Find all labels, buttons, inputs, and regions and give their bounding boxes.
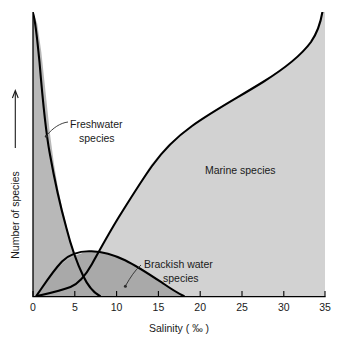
brackish-water-species-label-line1: Brackish water xyxy=(144,258,213,270)
y-axis-arrow-icon xyxy=(12,91,18,149)
brackish-water-species-label-line2: species xyxy=(163,272,199,284)
marine-label-group: Marine species xyxy=(205,164,276,176)
brackish-leader-dot xyxy=(124,285,127,288)
x-axis-title: Salinity ( ‰ ) xyxy=(149,322,209,334)
y-axis-title: Number of species xyxy=(9,171,21,259)
freshwater-species-label-line1: Freshwater xyxy=(70,118,123,130)
x-tick-label-2: 10 xyxy=(111,301,123,313)
freshwater-leader-dot xyxy=(45,135,48,138)
x-axis-tick-labels: 0 5 10 15 20 25 30 35 xyxy=(30,301,331,313)
freshwater-species-label-line2: species xyxy=(79,132,115,144)
x-tick-label-7: 35 xyxy=(319,301,331,313)
x-tick-label-3: 15 xyxy=(153,301,165,313)
x-tick-label-6: 30 xyxy=(278,301,290,313)
x-tick-label-0: 0 xyxy=(30,301,36,313)
x-tick-label-5: 25 xyxy=(236,301,248,313)
freshwater-label-group: Freshwater species xyxy=(45,118,123,144)
x-tick-label-1: 5 xyxy=(72,301,78,313)
marine-species-label: Marine species xyxy=(205,164,276,176)
remane-diagram-svg: 0 5 10 15 20 25 30 35 Salinity ( ‰ ) Num… xyxy=(0,0,344,351)
marine-species-area xyxy=(37,12,325,296)
chart-figure: 0 5 10 15 20 25 30 35 Salinity ( ‰ ) Num… xyxy=(0,0,344,351)
x-tick-label-4: 20 xyxy=(194,301,206,313)
